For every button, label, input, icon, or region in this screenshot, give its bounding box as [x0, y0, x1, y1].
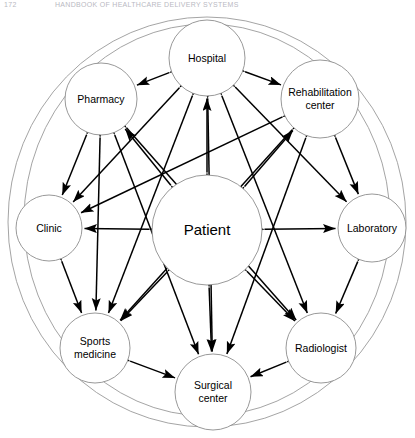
node-label-sports: Sports	[80, 335, 110, 347]
node-label-sports: medicine	[74, 348, 116, 360]
edge-laboratory-radiologist	[336, 262, 358, 314]
node-label-rehabilitation: center	[305, 99, 335, 111]
edge-hospital-rehabilitation	[245, 72, 281, 85]
node-label-radiologist: Radiologist	[295, 342, 347, 354]
edge-hospital-pharmacy	[137, 73, 169, 86]
edge-rehabilitation-laboratory	[336, 137, 359, 194]
healthcare-network-diagram: PatientHospitalPharmacyRehabilitationcen…	[0, 0, 415, 438]
node-hospital[interactable]: Hospital	[169, 20, 245, 96]
node-label-rehabilitation: Rehabilitation	[288, 86, 352, 98]
node-surgical[interactable]: Surgicalcenter	[175, 354, 251, 430]
node-label-pharmacy: Pharmacy	[77, 93, 125, 105]
node-label-hospital: Hospital	[188, 52, 226, 64]
node-radiologist[interactable]: Radiologist	[286, 313, 356, 383]
node-label-surgical: center	[198, 392, 228, 404]
node-rehabilitation[interactable]: Rehabilitationcenter	[281, 60, 359, 138]
nodes-layer: PatientHospitalPharmacyRehabilitationcen…	[16, 20, 406, 430]
node-pharmacy[interactable]: Pharmacy	[65, 63, 137, 135]
node-sports[interactable]: Sportsmedicine	[60, 313, 130, 383]
node-clinic[interactable]: Clinic	[16, 195, 82, 261]
edge-patient-pharmacy	[125, 129, 171, 185]
node-label-laboratory: Laboratory	[347, 222, 398, 234]
node-label-clinic: Clinic	[36, 222, 62, 234]
node-laboratory[interactable]: Laboratory	[338, 194, 406, 262]
edge-pharmacy-clinic	[62, 135, 86, 195]
node-label-patient: Patient	[184, 221, 232, 238]
edge-patient-clinic	[84, 228, 149, 229]
edge-clinic-sports	[62, 261, 82, 313]
edge-patient-laboratory	[264, 228, 335, 229]
figure-container: 172 HANDBOOK OF HEALTHCARE DELIVERY SYST…	[0, 0, 415, 438]
node-label-surgical: Surgical	[194, 379, 232, 391]
edge-radiologist-surgical	[251, 362, 287, 377]
edge-sports-surgical	[130, 361, 175, 378]
edge-pharmacy-sports	[96, 137, 100, 310]
edge-patient-sports	[121, 272, 168, 321]
node-patient[interactable]: Patient	[152, 175, 262, 285]
